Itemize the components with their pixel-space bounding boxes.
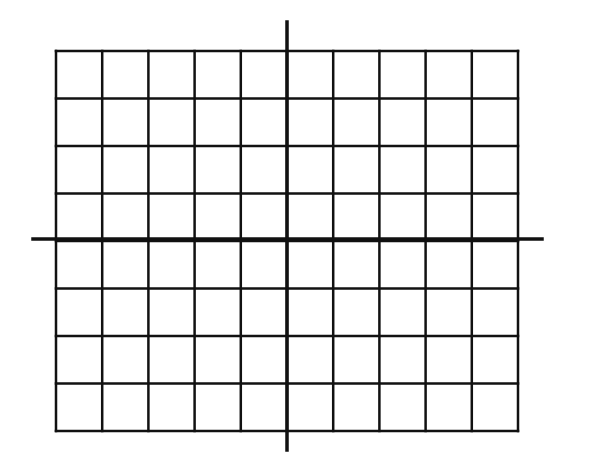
coordinate-grid (0, 0, 595, 457)
